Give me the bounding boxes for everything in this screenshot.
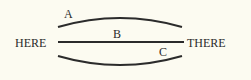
path-b-label: B (113, 28, 121, 40)
end-label: THERE (187, 37, 226, 49)
start-label: HERE (15, 37, 46, 49)
path-c-label: C (159, 46, 167, 58)
path-a-label: A (64, 8, 73, 20)
path-a-line (58, 18, 182, 27)
